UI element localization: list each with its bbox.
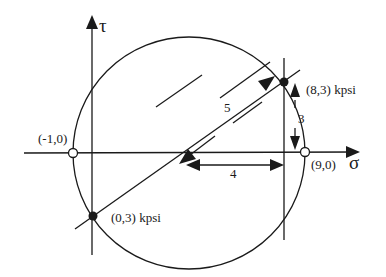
radius-dimension-arrow: [156, 75, 202, 107]
vertical-arrowhead-bottom-icon: [290, 136, 300, 150]
vertical-arrowhead-top-icon: [290, 83, 300, 97]
horizontal-arrowhead-right-icon: [270, 159, 284, 171]
point-filled-8-3: [280, 78, 289, 87]
tau-axis-label: τ: [99, 16, 107, 35]
vertical-dimension-label: 3: [298, 112, 305, 125]
point-label-minus1-0: (-1,0): [38, 132, 67, 145]
sigma-axis-label: σ: [349, 153, 359, 172]
tau-axis-arrow-icon: [86, 15, 98, 29]
point-label-0-3: (0,3) kpsi: [111, 211, 161, 224]
point-open-9-0: [301, 148, 310, 157]
point-label-9-0: (9,0): [311, 158, 336, 171]
point-open-minus1-0: [69, 149, 78, 158]
radius-dimension-label: 5: [224, 101, 231, 114]
point-label-8-3: (8,3) kpsi: [306, 83, 356, 96]
diameter-line: [75, 70, 300, 229]
horizontal-dimension-label: 4: [230, 167, 237, 180]
radius-arrowhead-bottom-icon: [179, 149, 196, 164]
point-filled-0-3: [89, 212, 98, 221]
